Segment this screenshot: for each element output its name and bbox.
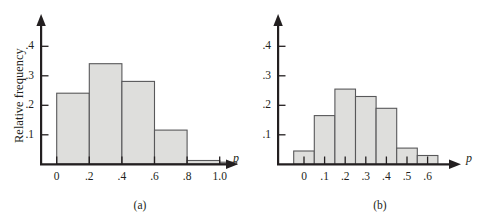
- panel-b-x-tick-label-7: .6: [423, 171, 432, 183]
- panel-b-x-tick-label-2: .1: [320, 171, 329, 183]
- panel-b-bars: [294, 89, 438, 164]
- panel-b-y-arrow: [273, 14, 282, 26]
- histogram-panel-b: .1 .2 .3 .4 0 .1 .2 .3 .4 .5 .6 p (b): [241, 0, 482, 222]
- panel-b-x-tick-label-4: .3: [361, 171, 370, 183]
- panel-a-x-tick-label-5: .8: [183, 171, 192, 183]
- panel-b-x-tick-label-5: .4: [382, 171, 391, 183]
- bar-a-1: [57, 93, 90, 164]
- bar-b-5: [376, 108, 397, 164]
- panel-a-x-tick-label-2: .2: [85, 171, 94, 183]
- panel-a-x-tick-label-6: 1.0: [213, 171, 227, 183]
- panel-a-y-tick-label-3: .3: [12, 70, 34, 82]
- panel-a-y-arrow: [36, 14, 45, 26]
- panel-a-x-axis-name: p: [233, 152, 239, 164]
- panel-b-y-ticks: [278, 46, 285, 135]
- panel-b-y-tick-label-3: .3: [249, 70, 271, 82]
- panel-a-x-tick-label-4: .6: [150, 171, 159, 183]
- panel-a-plot: [0, 0, 241, 222]
- panel-a-x-tick-label-1: 0: [54, 171, 60, 183]
- panel-b-x-axis-name: p: [466, 152, 472, 164]
- panel-b-y-tick-label-1: .1: [249, 129, 271, 141]
- panel-b-x-tick-label-3: .2: [341, 171, 350, 183]
- panel-b-caption: (b): [373, 200, 386, 212]
- panel-b-y-tick-label-2: .2: [249, 100, 271, 112]
- panel-b-plot: [241, 0, 482, 222]
- bar-b-3: [335, 89, 356, 164]
- panel-b-x-arrow: [449, 160, 461, 169]
- panel-a-y-tick-label-2: .2: [12, 100, 34, 112]
- bar-a-4: [155, 130, 188, 164]
- panel-a-y-ticks: [41, 46, 48, 135]
- bar-b-4: [356, 97, 377, 165]
- histogram-figure: Relative frequency .1 .2 .3 .4 0 .2 .4 .…: [0, 0, 482, 222]
- panel-b-y-tick-label-4: .4: [249, 41, 271, 53]
- panel-a-y-tick-label-1: .1: [12, 129, 34, 141]
- panel-b-x-tick-label-1: 0: [301, 171, 307, 183]
- panel-b-x-tick-label-6: .5: [403, 171, 412, 183]
- bar-a-2: [89, 64, 122, 164]
- panel-a-caption: (a): [134, 200, 147, 212]
- panel-a-bars: [57, 64, 237, 164]
- bar-a-3: [122, 81, 155, 164]
- panel-a-x-tick-label-3: .4: [118, 171, 127, 183]
- panel-a-y-tick-label-4: .4: [12, 41, 34, 53]
- histogram-panel-a: Relative frequency .1 .2 .3 .4 0 .2 .4 .…: [0, 0, 241, 222]
